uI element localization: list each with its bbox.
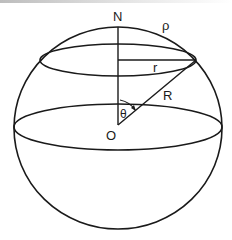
sphere-diagram: N ρ r R θ O [0,0,232,240]
label-angle: θ [120,107,127,121]
label-arc-length: ρ [162,18,169,33]
label-north: N [113,9,122,24]
label-cap-radius: r [153,60,158,75]
label-center: O [106,128,116,143]
label-sphere-radius: R [163,88,172,103]
